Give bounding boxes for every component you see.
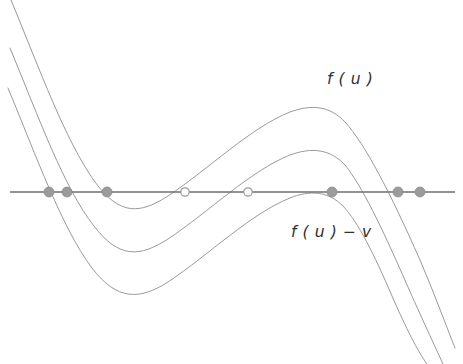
function-plot: f ( u ) f ( u ) − v (0, 0, 463, 364)
root-marker-filled (44, 187, 54, 197)
curve-f-of-u-shifted-mid (10, 48, 443, 364)
root-marker-filled (102, 187, 112, 197)
root-marker-filled (415, 187, 425, 197)
root-marker-filled (62, 187, 72, 197)
label-f-of-u-minus-v: f ( u ) − v (291, 223, 372, 241)
root-marker-filled (393, 187, 403, 197)
curve-group (8, 0, 455, 364)
root-marker-hollow (181, 188, 189, 196)
root-marker-hollow (244, 188, 252, 196)
figure-canvas: f ( u ) f ( u ) − v (0, 0, 463, 364)
label-f-of-u: f ( u ) (327, 70, 373, 88)
root-marker-filled (327, 187, 337, 197)
curve-f-of-u (11, 0, 455, 348)
